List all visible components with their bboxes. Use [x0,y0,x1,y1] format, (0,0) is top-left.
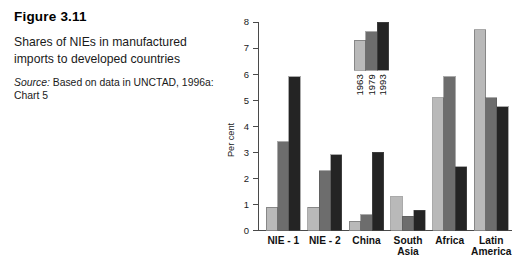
bar-1993-5 [455,167,466,231]
y-axis-title: Per cent [226,122,236,157]
bar-1979-3 [361,215,372,231]
category-label-1: NIE - 1 [267,235,299,246]
y-tick-label: 8 [244,16,249,27]
legend-swatch-1963 [354,40,365,70]
bar-1963-4 [391,197,402,231]
chart-legend: 196319791993 [354,22,388,96]
y-tick-label: 4 [244,121,249,132]
category-label-5: Africa [435,235,464,246]
bar-1963-6 [474,30,485,231]
bar-1979-6 [486,98,497,231]
bar-1993-2 [331,155,342,231]
category-label-3: China [352,235,381,246]
bar-1979-1 [278,142,289,231]
figure-caption-block: Figure 3.11 Shares of NIEs in manufactur… [14,10,214,103]
bar-1993-6 [497,107,508,231]
bar-1993-4 [414,210,425,230]
category-label-4: Asia [397,246,419,257]
y-tick-label: 6 [244,69,249,80]
x-axis-category-labels: NIE - 1NIE - 2ChinaSouthAsiaAfricaLatinA… [267,235,511,258]
bar-chart: Per cent 012345678 NIE - 1NIE - 2ChinaSo… [222,0,517,272]
category-label-6: Latin [479,235,503,246]
bar-1963-5 [433,98,444,231]
legend-label-1963: 1963 [354,74,365,95]
source-label: Source: [14,77,50,88]
figure-number: Figure 3.11 [14,10,214,25]
legend-label-1979: 1979 [366,74,377,95]
bar-1963-2 [308,207,319,230]
y-axis: 012345678 [244,16,259,236]
figure-title: Shares of NIEs in manufactured imports t… [14,34,214,68]
y-tick-label: 5 [244,95,249,106]
y-tick-label: 7 [244,42,249,53]
legend-swatch-1979 [366,32,377,70]
bar-1979-5 [444,77,455,231]
bar-1993-3 [372,152,383,230]
bar-1963-3 [349,221,360,230]
chart-canvas: Per cent 012345678 NIE - 1NIE - 2ChinaSo… [222,0,517,272]
y-tick-label: 0 [244,225,249,236]
bar-1979-2 [319,171,330,231]
category-label-4: South [394,235,423,246]
bar-1993-1 [289,77,300,231]
category-label-2: NIE - 2 [309,235,341,246]
y-tick-label: 3 [244,147,249,158]
legend-label-1993: 1993 [377,74,388,95]
category-label-6: America [471,246,512,257]
y-tick-label: 2 [244,173,249,184]
bar-1963-1 [266,207,277,230]
bar-1979-4 [402,216,413,230]
legend-swatch-1993 [377,22,388,70]
y-tick-label: 1 [244,199,249,210]
figure-source: Source: Based on data in UNCTAD, 1996a: … [14,76,214,104]
